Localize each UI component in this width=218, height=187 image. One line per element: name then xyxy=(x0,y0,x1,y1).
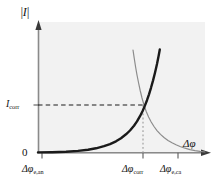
origin-label: 0 xyxy=(22,147,28,158)
plot-area-background xyxy=(38,22,205,154)
phi-e-an-base: Δφ xyxy=(22,163,33,174)
x-tick-label-phi-e-an: Δφe,an xyxy=(22,164,44,174)
x-tick-label-phi-e-ca: Δφe,ca xyxy=(160,164,181,174)
phi-e-ca-base: Δφ xyxy=(160,163,171,174)
phi-e-ca-subscript: e,ca xyxy=(171,168,181,175)
phi-e-an-subscript: e,an xyxy=(33,168,43,175)
x-axis-title: Δφ xyxy=(183,138,196,149)
icorr-subscript: corr xyxy=(9,103,19,110)
x-axis-arrowhead xyxy=(201,150,211,156)
phi-corr-subscript: corr xyxy=(133,168,143,175)
chart-canvas xyxy=(0,0,218,187)
polarization-curve-figure: |I| Icorr 0 Δφ Δφe,an Δφcorr Δφe,ca xyxy=(0,0,218,187)
phi-corr-base: Δφ xyxy=(122,163,133,174)
x-tick-label-phi-corr: Δφcorr xyxy=(122,164,143,174)
y-axis-title: |I| xyxy=(20,6,29,18)
y-tick-label-icorr: Icorr xyxy=(6,99,19,109)
